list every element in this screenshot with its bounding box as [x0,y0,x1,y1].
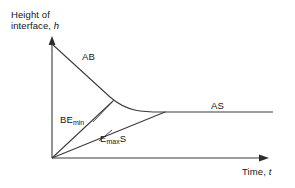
curve-label-emax-s: EmaxS [100,133,126,144]
line-be-min [52,101,113,158]
y-axis-label-line2: interface, h [11,20,59,31]
curve-label-be-min-subscript: min [73,119,84,126]
leader-line-be-min [93,100,114,122]
y-axis-label-line2-text: interface, [11,20,54,31]
figure-container: Height of interface, h Time, t AB AS BEm… [0,0,295,188]
curve-label-ab: AB [82,51,95,62]
curve-label-be-min: BEmin [60,114,84,125]
curve-label-emax-s-subscript: max [106,138,119,145]
y-axis-variable-symbol: h [54,20,59,31]
y-axis-label-line1: Height of [11,9,50,20]
x-axis-variable-symbol: t [269,166,272,177]
x-axis-arrowhead-icon [259,154,269,161]
y-axis-label: Height of interface, h [11,9,59,31]
curve-label-emax-s-suffix: S [120,133,126,144]
curve-ab [52,44,165,112]
x-axis-label: Time, t [242,166,271,177]
curve-label-as: AS [211,100,224,111]
curve-label-be-min-text: BE [60,114,73,125]
x-axis-label-text: Time, [242,166,269,177]
